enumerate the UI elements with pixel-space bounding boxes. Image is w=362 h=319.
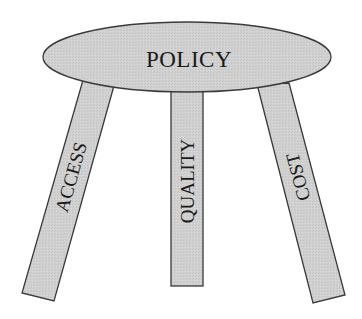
leg-quality: QUALITY bbox=[171, 88, 203, 286]
seat-policy: POLICY bbox=[43, 22, 331, 92]
leg-access: ACCESS bbox=[22, 80, 115, 301]
seat-label: POLICY bbox=[146, 47, 232, 72]
leg-quality-label: QUALITY bbox=[177, 139, 198, 224]
policy-stool-diagram: ACCESS QUALITY COST POLICY bbox=[0, 0, 362, 319]
leg-cost: COST bbox=[257, 83, 345, 303]
